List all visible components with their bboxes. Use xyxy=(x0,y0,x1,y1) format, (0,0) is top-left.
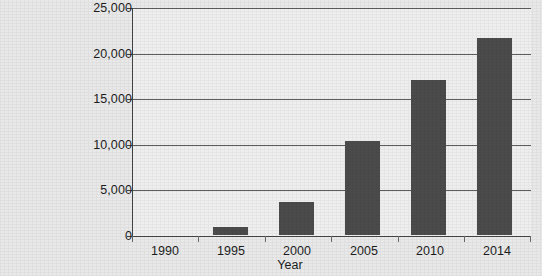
y-axis-label-5000: 5,000 xyxy=(14,184,132,197)
bar-chart: 25,000 20,000 15,000 10,000 5,000 0 1990… xyxy=(0,0,542,276)
x-axis-label-2014: 2014 xyxy=(465,245,529,258)
x-tick-3 xyxy=(331,236,332,242)
bar-1995[interactable] xyxy=(213,227,248,235)
x-tick-5 xyxy=(464,236,465,242)
y-axis-label-25000: 25,000 xyxy=(14,2,132,15)
bar-2010[interactable] xyxy=(411,80,446,235)
x-axis-label-2010: 2010 xyxy=(398,245,462,258)
x-axis-label-2000: 2000 xyxy=(265,245,329,258)
y-axis-label-15000: 15,000 xyxy=(14,93,132,106)
y-axis-label-10000: 10,000 xyxy=(14,139,132,152)
bar-2005[interactable] xyxy=(345,141,380,235)
x-axis-label-1995: 1995 xyxy=(199,245,263,258)
x-tick-6 xyxy=(530,236,531,242)
y-axis-label-0: 0 xyxy=(14,230,132,243)
x-axis-label-2005: 2005 xyxy=(332,245,396,258)
bars-layer xyxy=(132,8,531,236)
bar-2000[interactable] xyxy=(279,202,314,235)
x-axis-label-1990: 1990 xyxy=(133,245,197,258)
x-tick-1 xyxy=(198,236,199,242)
bar-2014[interactable] xyxy=(477,38,512,235)
x-tick-2 xyxy=(265,236,266,242)
x-axis-title: Year xyxy=(250,259,330,272)
x-tick-4 xyxy=(398,236,399,242)
x-tick-0 xyxy=(132,236,133,242)
y-axis-label-20000: 20,000 xyxy=(14,48,132,61)
y-axis: 25,000 20,000 15,000 10,000 5,000 0 xyxy=(0,0,132,276)
